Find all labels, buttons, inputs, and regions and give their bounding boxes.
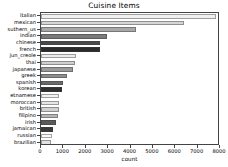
bar-brazilian	[41, 140, 51, 145]
bar-jamaican	[41, 127, 53, 132]
bar-irish	[41, 120, 56, 125]
bar-french	[41, 47, 100, 52]
bar-row	[41, 21, 218, 26]
x-tick-label-2000: 2000	[78, 148, 91, 154]
x-tick-label-7000: 7000	[190, 148, 203, 154]
y-tick-label-filipino: filipino	[19, 112, 36, 118]
bar-row	[41, 87, 218, 92]
y-tick-label-indian: indian	[20, 32, 36, 38]
bar-row	[41, 94, 218, 99]
bar-row	[41, 74, 218, 79]
bar-row	[41, 61, 218, 66]
bar-spanish	[41, 81, 63, 86]
bar-row	[41, 47, 218, 52]
bar-chinese	[41, 41, 100, 46]
bar-greek	[41, 74, 67, 79]
chart-title: Cuisine Items	[0, 1, 228, 10]
bar-row	[41, 101, 218, 106]
bar-russian	[41, 134, 52, 139]
x-tick-label-6000: 6000	[168, 148, 181, 154]
y-tick-label-italian: italian	[20, 12, 36, 18]
y-tick-label-greek: greek	[21, 72, 36, 78]
x-tick-label-5000: 5000	[145, 148, 158, 154]
bar-etnamese	[41, 94, 59, 99]
bar-row	[41, 81, 218, 86]
y-tick-label-thai: thai	[26, 59, 36, 65]
bar-korean	[41, 87, 62, 92]
bar-thai	[41, 61, 75, 66]
y-tick-label-spanish: spanish	[16, 79, 36, 85]
bar-japanese	[41, 67, 73, 72]
bar-suthern_us	[41, 27, 136, 32]
bars-container	[41, 13, 218, 144]
y-tick-label-british: british	[20, 105, 36, 111]
y-tick-label-russian: russian	[17, 132, 36, 138]
bar-row	[41, 54, 218, 59]
y-tick-label-mexican: mexican	[14, 19, 36, 25]
x-tick-label-3000: 3000	[101, 148, 114, 154]
bar-italian	[41, 14, 216, 19]
plot-axes	[40, 12, 219, 145]
x-tick-label-1000: 1000	[56, 148, 69, 154]
bar-row	[41, 41, 218, 46]
y-tick-label-suthern_us: suthern_us	[8, 26, 36, 32]
y-tick-label-jamaican: jamaican	[12, 125, 36, 131]
bar-row	[41, 114, 218, 119]
y-tick-label-etnamese: etnamese	[10, 92, 36, 98]
y-tick-label-irish: irish	[25, 119, 36, 125]
bar-row	[41, 27, 218, 32]
y-tick-label-japanese: japanese	[13, 66, 36, 72]
bar-row	[41, 127, 218, 132]
bar-british	[41, 107, 59, 112]
y-tick-label-chinese: chinese	[16, 39, 36, 45]
bar-row	[41, 134, 218, 139]
x-axis-label: count	[40, 156, 219, 163]
x-tick-label-4000: 4000	[123, 148, 136, 154]
bar-moroccan	[41, 101, 59, 106]
y-tick-label-french: french	[20, 46, 36, 52]
bar-row	[41, 107, 218, 112]
bar-row	[41, 34, 218, 39]
bar-row	[41, 14, 218, 19]
y-tick-label-brazilian: brazilian	[14, 139, 36, 145]
y-tick-label-korean: korean	[18, 85, 36, 91]
bar-row	[41, 67, 218, 72]
x-tick-label-0: 0	[38, 148, 41, 154]
y-tick-label-moroccan: moroccan	[10, 99, 36, 105]
bar-row	[41, 120, 218, 125]
chart-figure: Cuisine Items italianmexicansuthern_usin…	[0, 0, 228, 167]
bar-filipino	[41, 114, 58, 119]
y-tick-label-jun_creole: jun_creole	[10, 52, 36, 58]
bar-indian	[41, 34, 107, 39]
x-tick-label-8000: 8000	[212, 148, 225, 154]
bar-jun_creole	[41, 54, 76, 59]
bar-mexican	[41, 21, 184, 26]
